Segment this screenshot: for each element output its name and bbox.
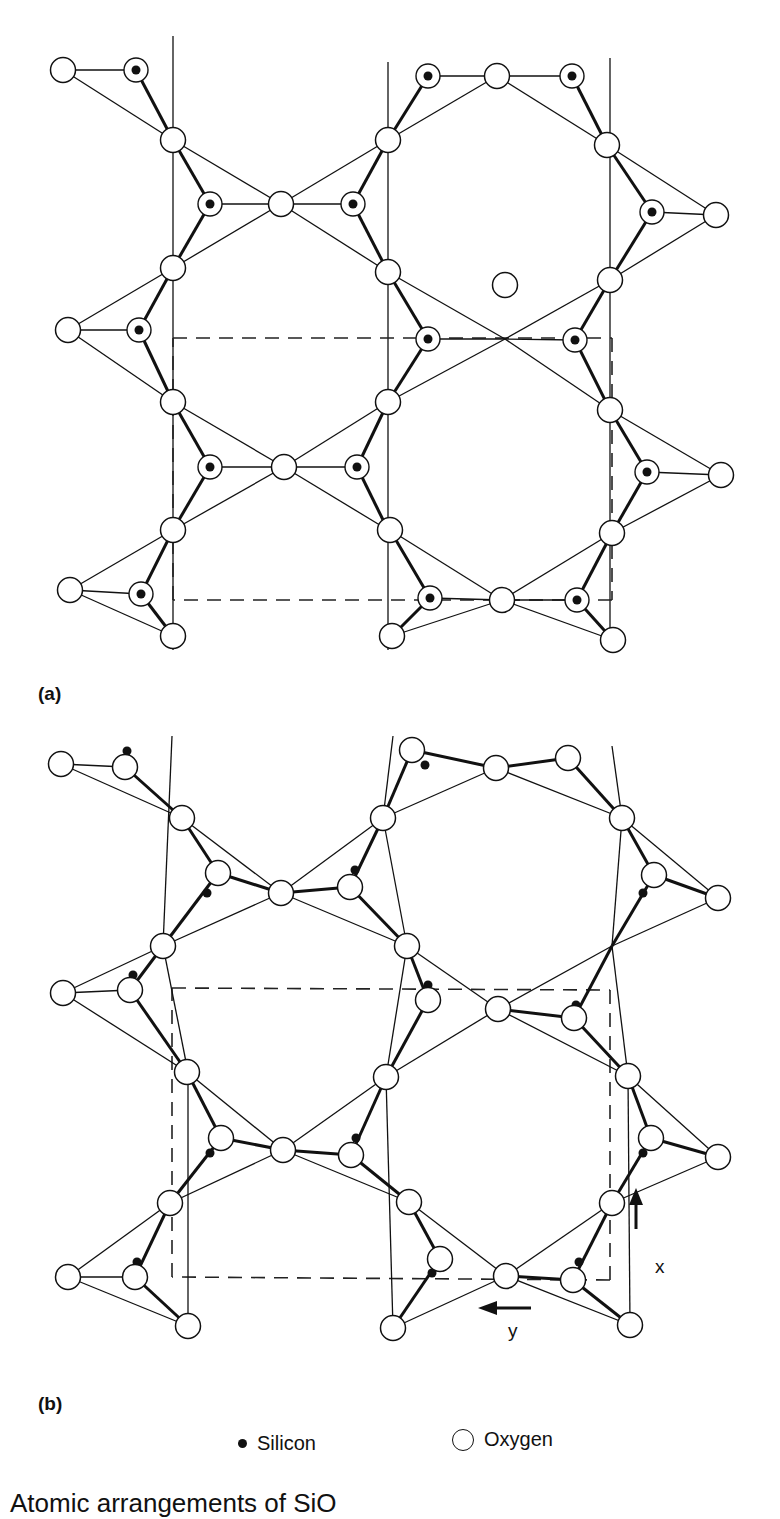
oxygen-atom bbox=[51, 58, 76, 83]
silicon-atom bbox=[573, 596, 582, 605]
o-o-edge bbox=[170, 1150, 283, 1203]
o-o-edge bbox=[386, 1077, 393, 1328]
silicon-atom bbox=[648, 208, 657, 217]
o-o-edge bbox=[612, 1157, 718, 1203]
silicon-atom bbox=[643, 468, 652, 477]
oxygen-atom bbox=[118, 978, 143, 1003]
oxygen-atom bbox=[58, 578, 83, 603]
si-o-bond bbox=[130, 990, 187, 1072]
o-o-edge bbox=[173, 402, 284, 467]
oxygen-atom bbox=[158, 1191, 183, 1216]
oxygen-atom bbox=[618, 1313, 643, 1338]
silicon-atom bbox=[203, 889, 212, 898]
oxygen-atom bbox=[374, 1065, 399, 1090]
legend: Silicon Oxygen bbox=[0, 1432, 780, 1462]
o-o-edge bbox=[163, 893, 281, 946]
oxygen-atom bbox=[706, 1145, 731, 1170]
oxygen-atom bbox=[170, 806, 195, 831]
o-o-edge bbox=[281, 818, 383, 893]
oxygen-atom bbox=[269, 192, 294, 217]
oxygen-atom bbox=[556, 746, 581, 771]
oxygen-atom bbox=[704, 203, 729, 228]
o-o-edge bbox=[622, 818, 718, 898]
oxygen-atom bbox=[380, 624, 405, 649]
si-o-bond bbox=[163, 873, 218, 946]
oxygen-atom bbox=[371, 806, 396, 831]
oxygen-atom bbox=[600, 521, 625, 546]
silicon-atom bbox=[424, 335, 433, 344]
silicon-atom bbox=[424, 72, 433, 81]
o-o-edge bbox=[68, 1203, 170, 1277]
legend-silicon-label: Silicon bbox=[257, 1432, 316, 1455]
o-o-edge bbox=[182, 818, 281, 893]
unit-cell-dashed-line bbox=[172, 988, 610, 990]
silicon-atom bbox=[352, 1134, 361, 1143]
o-o-edge bbox=[388, 272, 505, 339]
oxygen-atom bbox=[376, 128, 401, 153]
legend-oxygen-label: Oxygen bbox=[484, 1428, 553, 1451]
oxygen-atom bbox=[56, 1265, 81, 1290]
silicon-atom bbox=[353, 463, 362, 472]
oxygen-atom bbox=[269, 881, 294, 906]
panel-b-label: (b) bbox=[38, 1393, 62, 1415]
o-o-edge bbox=[63, 946, 163, 993]
o-o-edge bbox=[281, 893, 407, 946]
silicon-atom bbox=[349, 200, 358, 209]
oxygen-atom bbox=[161, 390, 186, 415]
oxygen-atom bbox=[123, 1265, 148, 1290]
oxygen-atom bbox=[595, 133, 620, 158]
oxygen-atom bbox=[494, 1264, 519, 1289]
oxygen-atom bbox=[49, 752, 74, 777]
oxygen-atom bbox=[490, 588, 515, 613]
oxygen-atom bbox=[338, 875, 363, 900]
silicon-atom bbox=[421, 761, 430, 770]
o-o-edge bbox=[390, 530, 502, 600]
o-o-edge bbox=[612, 818, 622, 946]
o-o-edge bbox=[610, 410, 721, 475]
silicon-atom bbox=[351, 866, 360, 875]
oxygen-atom bbox=[428, 1247, 453, 1272]
y-axis-arrow-icon bbox=[478, 1301, 531, 1315]
oxygen-atom bbox=[416, 988, 441, 1013]
silicon-atom bbox=[132, 66, 141, 75]
silicon-atom bbox=[575, 1258, 584, 1267]
silicon-atom bbox=[639, 889, 648, 898]
o-o-edge bbox=[506, 1203, 612, 1276]
oxygen-atom bbox=[51, 981, 76, 1006]
oxygen-atom bbox=[161, 624, 186, 649]
silicon-atom bbox=[206, 1149, 215, 1158]
o-o-edge bbox=[70, 590, 173, 636]
oxygen-atom bbox=[161, 518, 186, 543]
silicon-atom bbox=[426, 594, 435, 603]
figure-caption: Atomic arrangements of SiO bbox=[10, 1488, 337, 1519]
oxygen-atom bbox=[376, 390, 401, 415]
o-o-edge bbox=[505, 339, 610, 410]
o-o-edge bbox=[628, 1076, 630, 1325]
y-axis-label: y bbox=[508, 1320, 518, 1342]
oxygen-atom bbox=[561, 1268, 586, 1293]
o-o-edge bbox=[386, 1009, 498, 1077]
oxygen-atom bbox=[209, 1126, 234, 1151]
oxygen-atom bbox=[601, 628, 626, 653]
oxygen-atom bbox=[706, 886, 731, 911]
oxygen-atom bbox=[271, 1138, 296, 1163]
silicon-atom bbox=[571, 336, 580, 345]
o-o-edge bbox=[173, 204, 281, 268]
silicon-atom bbox=[568, 72, 577, 81]
oxygen-atom bbox=[151, 934, 176, 959]
oxygen-atom bbox=[639, 1126, 664, 1151]
oxygen-atom bbox=[206, 861, 231, 886]
x-axis-label: x bbox=[655, 1256, 665, 1278]
oxygen-atom bbox=[113, 755, 138, 780]
o-o-edge bbox=[173, 467, 284, 530]
silicon-atom bbox=[206, 200, 215, 209]
legend-oxygen: Oxygen bbox=[452, 1428, 553, 1451]
oxygen-atom bbox=[598, 268, 623, 293]
oxygen-atom bbox=[616, 1064, 641, 1089]
o-o-edge bbox=[187, 1072, 283, 1150]
oxygen-atom bbox=[600, 1191, 625, 1216]
oxygen-atom bbox=[493, 273, 518, 298]
o-o-edge bbox=[63, 70, 173, 140]
oxygen-atom bbox=[161, 256, 186, 281]
o-o-edge bbox=[173, 140, 281, 204]
